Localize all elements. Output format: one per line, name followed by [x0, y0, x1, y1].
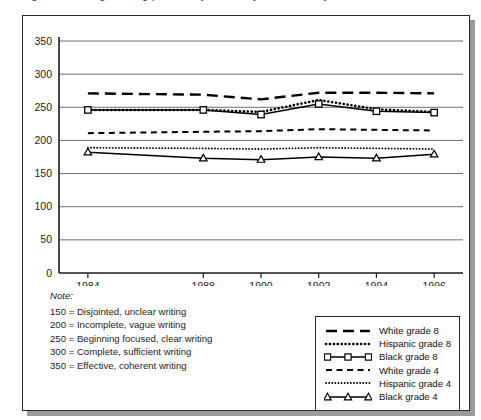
- legend-marker-square: [345, 354, 351, 360]
- series-line: [88, 93, 434, 100]
- series-marker-triangle: [430, 150, 438, 157]
- series-marker-square: [316, 101, 322, 107]
- series-marker-square: [200, 107, 206, 113]
- series-line: [88, 129, 434, 133]
- note-line: 300 = Complete, sufficient writing: [50, 345, 300, 358]
- y-axis-tick-label: 300: [34, 68, 52, 80]
- x-axis-tick-label: 1992: [307, 280, 331, 286]
- legend-item-label: White grade 4: [379, 365, 439, 376]
- y-axis-tick-label: 250: [34, 101, 52, 113]
- series-line: [88, 148, 434, 149]
- legend-item-label: Hispanic grade 8: [379, 338, 451, 349]
- series-marker-square: [373, 108, 379, 114]
- y-axis-tick-label: 100: [34, 200, 52, 212]
- note-line: 150 = Disjointed, unclear writing: [50, 305, 300, 318]
- legend-item-label: White grade 8: [379, 325, 439, 336]
- y-axis-tick-label: 50: [40, 233, 52, 245]
- legend-swatch-solid: [324, 391, 372, 403]
- legend-swatch-solid: [324, 351, 372, 363]
- legend-item: Black grade 4: [324, 390, 451, 403]
- y-axis-tick-label: 350: [34, 35, 52, 47]
- legend-item-label: Black grade 4: [379, 391, 438, 402]
- note-line: 250 = Beginning focused, clear writing: [50, 332, 300, 345]
- legend-item-label: Hispanic grade 4: [379, 378, 451, 389]
- figure-root: Figure 9. Average writing proficiency sc…: [0, 0, 481, 420]
- legend-item: Black grade 8: [324, 350, 451, 363]
- series-marker-square: [85, 107, 91, 113]
- figure-panel: 0501001502002503003501984198819901992199…: [22, 15, 470, 411]
- legend-item: White grade 8: [324, 324, 451, 337]
- x-axis-tick-label: 1988: [192, 280, 216, 286]
- series-hispanic-grade-4: [88, 148, 434, 149]
- series-marker-square: [258, 111, 264, 117]
- chart-plot-area: 0501001502002503003501984198819901992199…: [23, 16, 469, 286]
- x-axis-tick-label: 1996: [422, 280, 446, 286]
- note-line: 350 = Effective, coherent writing: [50, 359, 300, 372]
- series-marker-triangle: [315, 153, 323, 160]
- note-block: Note: 150 = Disjointed, unclear writing …: [50, 290, 300, 372]
- note-title: Note:: [50, 290, 300, 301]
- note-line: 200 = Incomplete, vague writing: [50, 318, 300, 331]
- y-axis-tick-label: 150: [34, 167, 52, 179]
- x-axis-tick-label: 1984: [76, 280, 100, 286]
- series-white-grade-4: [88, 129, 434, 133]
- y-axis-tick-label: 200: [34, 134, 52, 146]
- series-marker-square: [431, 109, 437, 115]
- line-chart-svg: 0501001502002503003501984198819901992199…: [23, 16, 469, 286]
- legend-swatch-thick-dotted: [324, 338, 372, 350]
- legend-marker-square: [365, 354, 371, 360]
- y-axis-tick-label: 0: [46, 267, 52, 279]
- x-axis-tick-label: 1990: [249, 280, 273, 286]
- cropped-figure-caption-text: Figure 9. Average writing proficiency sc…: [22, 0, 330, 1]
- series-white-grade-8: [88, 93, 434, 100]
- legend-item-label: Black grade 8: [379, 351, 438, 362]
- legend-marker-square: [324, 354, 330, 360]
- legend-item: Hispanic grade 4: [324, 377, 451, 390]
- cropped-figure-caption: Figure 9. Average writing proficiency sc…: [0, 0, 481, 13]
- x-axis-tick-label: 1994: [365, 280, 389, 286]
- series-marker-triangle: [84, 148, 92, 155]
- series-black-grade-8: [85, 101, 438, 118]
- legend-swatch-short-dash: [324, 364, 372, 376]
- series-black-grade-4: [84, 148, 438, 162]
- legend-item: Hispanic grade 8: [324, 337, 451, 350]
- legend-swatch-long-dash: [324, 325, 372, 337]
- chart-legend: White grade 8Hispanic grade 8Black grade…: [315, 316, 460, 411]
- legend-swatch-fine-dotted: [324, 377, 372, 389]
- legend-item: White grade 4: [324, 364, 451, 377]
